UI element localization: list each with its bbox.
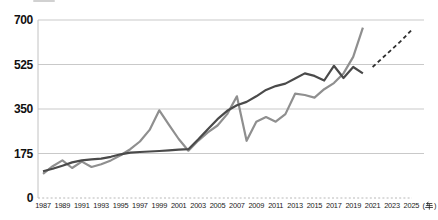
y-tick-label-0: 0	[2, 191, 33, 205]
x-axis-unit-label: ( )	[422, 201, 436, 210]
dashed-projection-line	[373, 30, 412, 67]
y-tick-label-350: 350	[2, 102, 33, 116]
unit-paren-close: )	[434, 201, 436, 210]
line-chart-figure: 0175350525700 19871989199119931995199719…	[0, 0, 438, 220]
chart-canvas	[0, 0, 438, 220]
y-tick-label-175: 175	[2, 147, 33, 161]
year-kanji-nen-icon	[425, 201, 433, 210]
y-tick-label-700: 700	[2, 13, 33, 27]
dark-solid-line	[43, 66, 363, 172]
x-tick-label-2025: 2025	[400, 201, 422, 210]
gray-solid-line	[43, 28, 363, 174]
y-tick-label-525: 525	[2, 58, 33, 72]
